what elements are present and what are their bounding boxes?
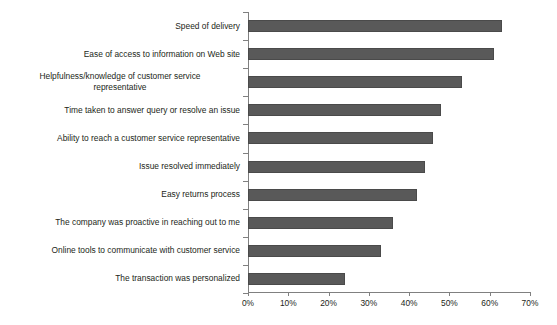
category-tick: [243, 40, 248, 41]
value-tick: [329, 292, 330, 296]
category-label: The transaction was personalized: [0, 265, 240, 293]
bar-chart: Speed of deliveryEase of access to infor…: [0, 0, 557, 325]
bar: [248, 132, 433, 144]
category-label: Easy returns process: [0, 181, 240, 209]
category-tick: [243, 153, 248, 154]
category-axis-labels: Speed of deliveryEase of access to infor…: [0, 12, 240, 293]
bar: [248, 217, 393, 229]
value-tick: [490, 292, 491, 296]
category-label: Speed of delivery: [0, 12, 240, 40]
bar-row: [248, 153, 530, 181]
bar: [248, 161, 425, 173]
bar-row: [248, 40, 530, 68]
bar: [248, 245, 381, 257]
category-tick: [243, 96, 248, 97]
category-label: Helpfulness/knowledge of customer servic…: [0, 68, 240, 96]
bar: [248, 273, 345, 285]
bar: [248, 20, 502, 32]
value-tick: [369, 292, 370, 296]
value-tick: [409, 292, 410, 296]
bar-row: [248, 209, 530, 237]
bar: [248, 104, 441, 116]
plot-area: [248, 12, 530, 293]
category-label: Time taken to answer query or resolve an…: [0, 96, 240, 124]
value-tick: [248, 292, 249, 296]
value-tick-label: 20%: [309, 298, 349, 308]
value-tick: [449, 292, 450, 296]
bar-row: [248, 96, 530, 124]
bar-row: [248, 181, 530, 209]
category-tick: [243, 237, 248, 238]
category-tick: [243, 12, 248, 13]
category-tick: [243, 209, 248, 210]
value-tick: [288, 292, 289, 296]
category-label: The company was proactive in reaching ou…: [0, 209, 240, 237]
value-tick-label: 10%: [268, 298, 308, 308]
category-tick: [243, 68, 248, 69]
value-tick-label: 40%: [389, 298, 429, 308]
category-label: Ability to reach a customer service repr…: [0, 124, 240, 152]
bar-row: [248, 68, 530, 96]
category-tick: [243, 124, 248, 125]
bar-row: [248, 265, 530, 293]
category-label: Ease of access to information on Web sit…: [0, 40, 240, 68]
value-tick-label: 50%: [429, 298, 469, 308]
category-tick: [243, 265, 248, 266]
value-tick-label: 70%: [510, 298, 550, 308]
category-tick: [243, 181, 248, 182]
value-tick: [530, 292, 531, 296]
bar-row: [248, 12, 530, 40]
bar: [248, 189, 417, 201]
bar: [248, 48, 494, 60]
category-label: Issue resolved immediately: [0, 153, 240, 181]
value-tick-label: 60%: [470, 298, 510, 308]
category-label: Online tools to communicate with custome…: [0, 237, 240, 265]
bar-row: [248, 237, 530, 265]
bar: [248, 76, 462, 88]
bar-rows: [248, 12, 530, 293]
bar-row: [248, 124, 530, 152]
value-tick-label: 30%: [349, 298, 389, 308]
value-tick-label: 0%: [228, 298, 268, 308]
